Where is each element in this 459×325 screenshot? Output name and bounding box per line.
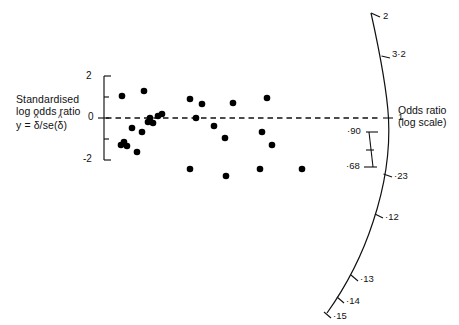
formula-prefix: y =	[16, 119, 31, 131]
scatter-point	[124, 143, 131, 150]
scatter-point	[159, 111, 166, 118]
arc-tick-3-2	[382, 56, 391, 58]
scatter-point	[141, 88, 148, 95]
y-tick-label-2: 2	[86, 70, 92, 81]
formula-denominator: δ	[58, 119, 64, 131]
formula-suffix: )	[64, 119, 68, 131]
scatter-point	[150, 120, 157, 127]
scatter-point	[187, 166, 194, 173]
arc-label-14: ·14	[346, 295, 360, 306]
arc-label-90: ·90	[347, 125, 361, 136]
scatter-point	[129, 125, 136, 132]
odds-ratio-caption: Odds ratio (log scale)	[398, 104, 446, 129]
arc-label-13: ·13	[360, 273, 374, 284]
arc-label-3-2: 3·2	[392, 48, 406, 59]
y-tick-label-minus-2: -2	[83, 153, 92, 164]
arc-tick-12	[375, 214, 383, 218]
arc-tick-13	[351, 275, 358, 281]
arc-label-15: ·15	[333, 310, 347, 321]
scatter-point	[119, 93, 126, 100]
scatter-points-layer	[118, 88, 306, 180]
scatter-point	[211, 123, 218, 130]
scatter-point	[187, 96, 194, 103]
scatter-point	[259, 129, 266, 136]
confidence-bracket	[364, 132, 378, 167]
odds-ratio-caption-line-1: Odds ratio	[398, 104, 446, 116]
scatter-point	[199, 101, 206, 108]
arc-label-2: 2	[383, 10, 388, 21]
scatter-point	[134, 149, 141, 156]
scatter-point	[230, 100, 237, 107]
scatter-point	[193, 115, 200, 122]
scatter-point	[223, 173, 230, 180]
scatter-point	[222, 135, 229, 142]
formula-numerator: δ	[34, 119, 40, 131]
y-axis-caption-line-2: log odds ratio	[16, 105, 81, 117]
plot-canvas	[0, 0, 459, 325]
arc-label-12: ·12	[385, 211, 399, 222]
arc-label-23: ·23	[394, 170, 408, 181]
y-tick-label-0: 0	[88, 111, 94, 122]
y-axis-caption-line-1: Standardised	[16, 93, 79, 105]
scatter-point	[264, 95, 271, 102]
scatter-point	[269, 142, 276, 149]
formula-mid: /se(	[40, 119, 58, 131]
galbraith-plot-figure: Standardised log odds ratio y = δ/se(δ) …	[0, 0, 459, 325]
arc-label-1: 1	[398, 111, 403, 122]
scatter-point	[257, 166, 264, 173]
scatter-point	[299, 166, 306, 173]
odds-ratio-caption-line-2: (log scale)	[398, 116, 446, 128]
arc-tick-14	[337, 297, 344, 303]
scatter-point	[139, 129, 146, 136]
arc-label-68: ·68	[346, 160, 360, 171]
